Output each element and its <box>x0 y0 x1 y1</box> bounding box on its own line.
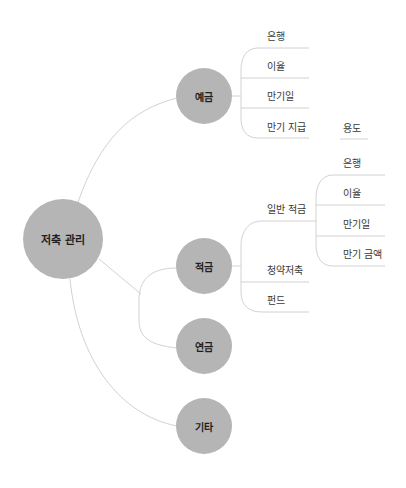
node-pension[interactable]: 연금 <box>176 318 232 374</box>
floating-node-purpose[interactable]: 용도 <box>343 123 361 135</box>
deposit-child-maturity-payout[interactable]: 만기 지급 <box>267 122 306 134</box>
regular-child-bank[interactable]: 은행 <box>343 158 361 170</box>
connector-root-deposit <box>78 98 177 202</box>
connector-root-junction <box>99 259 141 294</box>
deposit-child-interest[interactable]: 이율 <box>267 61 285 73</box>
savings-child-subscription[interactable]: 청약저축 <box>267 265 303 277</box>
deposit-child-bank[interactable]: 은행 <box>267 31 285 43</box>
regular-child-maturity-date[interactable]: 만기일 <box>343 219 370 231</box>
root-node-label: 저축 관리 <box>41 231 85 247</box>
root-node[interactable]: 저축 관리 <box>23 199 103 279</box>
savings-child-fund[interactable]: 펀드 <box>267 295 285 307</box>
node-installment-savings[interactable]: 적금 <box>176 238 232 294</box>
node-other[interactable]: 기타 <box>176 398 232 454</box>
connector-root-other <box>70 279 177 426</box>
mindmap-canvas: 저축 관리 예금 적금 연금 기타 은행 이율 만기일 만기 지급 용도 일반 … <box>0 0 406 488</box>
connector-junction-bracket <box>139 268 177 348</box>
node-other-label: 기타 <box>195 419 213 434</box>
node-deposit-label: 예금 <box>195 89 213 104</box>
regular-child-maturity-amount[interactable]: 만기 금액 <box>343 249 382 261</box>
deposit-child-maturity-date[interactable]: 만기일 <box>267 91 294 103</box>
node-installment-savings-label: 적금 <box>195 259 213 274</box>
node-pension-label: 연금 <box>195 339 213 354</box>
node-deposit[interactable]: 예금 <box>176 68 232 124</box>
regular-child-interest[interactable]: 이율 <box>343 188 361 200</box>
savings-child-regular[interactable]: 일반 적금 <box>267 204 306 216</box>
